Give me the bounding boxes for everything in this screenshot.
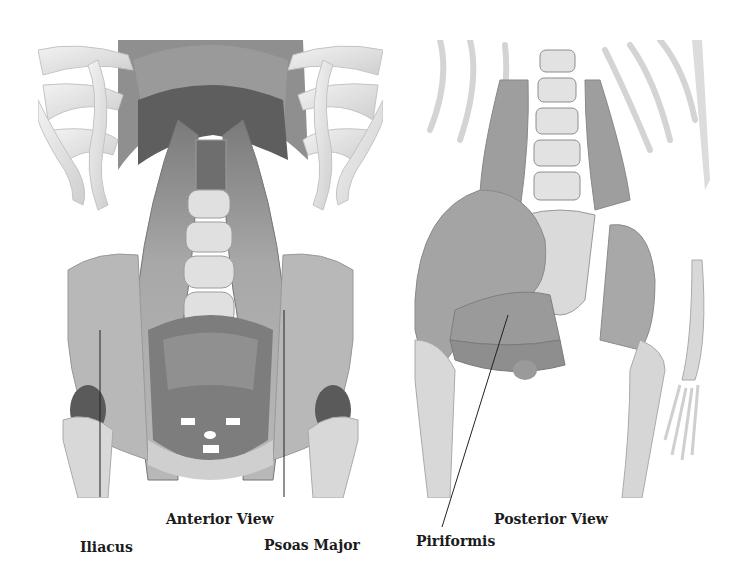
label-iliacus: Iliacus bbox=[80, 539, 133, 555]
piriformis-leader-line bbox=[442, 315, 508, 527]
label-psoas-major: Psoas Major bbox=[264, 537, 360, 553]
caption-anterior-view: Anterior View bbox=[166, 511, 274, 527]
leader-lines bbox=[0, 0, 745, 582]
label-piriformis: Piriformis bbox=[416, 533, 495, 549]
caption-posterior-view: Posterior View bbox=[494, 511, 608, 527]
